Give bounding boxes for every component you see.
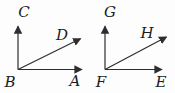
point-label-G: G bbox=[104, 5, 116, 20]
left-angle-diagram bbox=[18, 27, 82, 70]
right-angle-diagram bbox=[105, 27, 166, 70]
point-label-B: B bbox=[4, 75, 15, 90]
point-label-D: D bbox=[56, 28, 68, 43]
ray-B-to-D-arrow bbox=[18, 39, 80, 70]
ray-F-to-H-arrow bbox=[105, 37, 166, 70]
point-label-F: F bbox=[96, 75, 106, 90]
point-label-H: H bbox=[140, 26, 153, 41]
geometry-figure: C D B A G H F E bbox=[0, 0, 175, 93]
point-label-A: A bbox=[70, 74, 81, 89]
point-label-E: E bbox=[156, 75, 167, 90]
point-label-C: C bbox=[18, 5, 29, 20]
